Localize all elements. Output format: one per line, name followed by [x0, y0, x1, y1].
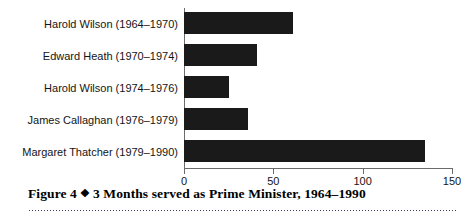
bar-row: Edward Heath (1970–1974) [184, 40, 452, 72]
category-label: Margaret Thatcher (1979–1990) [22, 136, 178, 168]
figure-caption: Figure 4❖3 Months served as Prime Minist… [28, 186, 366, 202]
figure-container: Harold Wilson (1964–1970) Edward Heath (… [0, 0, 475, 219]
x-axis-tick [363, 168, 364, 174]
bar-harold-wilson-1964-1970 [184, 12, 293, 34]
x-axis-tick [452, 168, 453, 174]
caption-separator-icon: ❖ [77, 187, 93, 199]
plot-area: Harold Wilson (1964–1970) Edward Heath (… [184, 8, 452, 168]
caption-prefix: Figure 4 [28, 186, 77, 201]
bar-harold-wilson-1974-1976 [184, 76, 229, 98]
bar-row: Harold Wilson (1964–1970) [184, 8, 452, 40]
category-label: Edward Heath (1970–1974) [43, 40, 178, 72]
x-axis-line [184, 168, 453, 169]
caption-text: 3 Months served as Prime Minister, 1964–… [93, 186, 366, 201]
category-label: Harold Wilson (1974–1976) [44, 72, 178, 104]
x-axis-tick [273, 168, 274, 174]
dotted-divider [28, 209, 456, 212]
bar-chart: Harold Wilson (1964–1970) Edward Heath (… [0, 0, 475, 180]
x-axis-tick [184, 168, 185, 174]
bar-row: Harold Wilson (1974–1976) [184, 72, 452, 104]
category-label: Harold Wilson (1964–1970) [44, 8, 178, 40]
bar-row: Margaret Thatcher (1979–1990) [184, 136, 452, 168]
bar-james-callaghan-1976-1979 [184, 108, 248, 130]
bar-margaret-thatcher-1979-1990 [184, 140, 425, 162]
x-axis-tick-label: 150 [443, 175, 461, 187]
bar-edward-heath-1970-1974 [184, 44, 257, 66]
bar-row: James Callaghan (1976–1979) [184, 104, 452, 136]
category-label: James Callaghan (1976–1979) [28, 104, 178, 136]
